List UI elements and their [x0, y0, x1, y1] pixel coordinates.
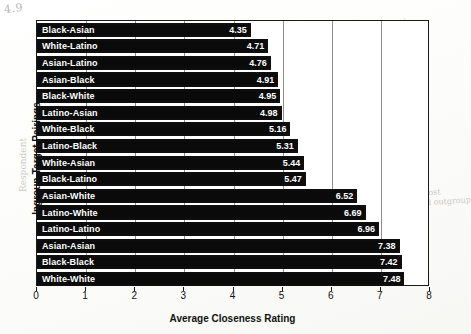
bar: Asian-Latino4.76 [37, 56, 271, 70]
bar-series: Black-Asian4.35White-Latino4.71Asian-Lat… [37, 21, 428, 285]
x-tick-label: 3 [181, 290, 187, 301]
bar-row: Asian-Asian7.38 [37, 239, 428, 253]
chart-plot-area: Black-Asian4.35White-Latino4.71Asian-Lat… [36, 20, 429, 286]
bar-category-label: Latino-Black [42, 141, 97, 151]
x-tick-label: 5 [279, 290, 285, 301]
bar-category-label: White-Black [42, 124, 95, 134]
x-tick-label: 4 [230, 290, 236, 301]
bar-row: Asian-Black4.91 [37, 72, 428, 86]
x-tick-label: 7 [377, 290, 383, 301]
bar-category-label: Black-Asian [42, 25, 95, 35]
bar-row: Latino-Asian4.98 [37, 106, 428, 120]
bar-value-label: 5.16 [269, 124, 287, 134]
bar-row: Black-Latino5.47 [37, 172, 428, 186]
bar: Asian-White6.52 [37, 189, 357, 203]
bar: Black-White4.95 [37, 89, 280, 103]
x-axis-title: Average Closeness Rating [36, 313, 429, 324]
bar-category-label: Asian-Asian [42, 241, 95, 251]
x-tick-label: 8 [426, 290, 432, 301]
x-tick-label: 6 [328, 290, 334, 301]
bar-value-label: 4.71 [247, 41, 265, 51]
bar: Asian-Asian7.38 [37, 239, 400, 253]
bar-value-label: 7.38 [378, 241, 396, 251]
bar-row: White-Asian5.44 [37, 156, 428, 170]
bar-category-label: Asian-Black [42, 75, 95, 85]
y-axis-title: Ingroup-Target Pairings [31, 59, 42, 259]
bar: Black-Latino5.47 [37, 172, 306, 186]
bar-value-label: 4.35 [229, 25, 247, 35]
bar-row: Black-Black7.42 [37, 255, 428, 269]
bar-value-label: 4.95 [259, 91, 277, 101]
bar-category-label: Latino-White [42, 208, 98, 218]
bar-row: White-White7.48 [37, 272, 428, 286]
bar: White-Black5.16 [37, 122, 290, 136]
bar-value-label: 6.69 [344, 208, 362, 218]
bar: Asian-Black4.91 [37, 72, 278, 86]
x-tick-label: 0 [33, 290, 39, 301]
bar: White-White7.48 [37, 272, 404, 286]
bar-value-label: 6.96 [357, 224, 375, 234]
bar: Latino-Asian4.98 [37, 106, 282, 120]
bar-row: Latino-Latino6.96 [37, 222, 428, 236]
bar-value-label: 4.76 [249, 58, 267, 68]
bar-row: Latino-White6.69 [37, 205, 428, 219]
bar-value-label: 6.52 [336, 191, 354, 201]
bar-row: Latino-Black5.31 [37, 139, 428, 153]
bar-category-label: Asian-Latino [42, 58, 98, 68]
bar-row: White-Latino4.71 [37, 39, 428, 53]
bar-category-label: Black-Black [42, 257, 94, 267]
bar-value-label: 7.48 [383, 274, 401, 284]
bar: White-Latino4.71 [37, 39, 268, 53]
bar-category-label: Black-Latino [42, 174, 97, 184]
x-tick-label: 2 [131, 290, 137, 301]
bar-value-label: 5.47 [284, 174, 302, 184]
bar-row: Black-White4.95 [37, 89, 428, 103]
bar-category-label: Black-White [42, 91, 95, 101]
bar-category-label: Latino-Asian [42, 108, 98, 118]
bar-row: Black-Asian4.35 [37, 23, 428, 37]
bar: Latino-Black5.31 [37, 139, 298, 153]
bar: White-Asian5.44 [37, 156, 304, 170]
bar-category-label: White-White [42, 274, 95, 284]
bar: Latino-White6.69 [37, 205, 366, 219]
x-tick-label: 1 [82, 290, 88, 301]
bar-value-label: 5.31 [276, 141, 294, 151]
bar-category-label: White-Latino [42, 41, 98, 51]
bar-category-label: White-Asian [42, 158, 95, 168]
bar-row: Asian-White6.52 [37, 189, 428, 203]
bar-value-label: 4.98 [260, 108, 278, 118]
x-axis-ticks: 012345678 [36, 287, 429, 301]
bar-category-label: Asian-White [42, 191, 95, 201]
bar: Black-Asian4.35 [37, 23, 251, 37]
bar: Black-Black7.42 [37, 255, 402, 269]
bar-value-label: 7.42 [380, 257, 398, 267]
bar-category-label: Latino-Latino [42, 224, 100, 234]
bar-value-label: 4.91 [257, 75, 275, 85]
bar-value-label: 5.44 [283, 158, 301, 168]
bar-row: White-Black5.16 [37, 122, 428, 136]
bar-row: Asian-Latino4.76 [37, 56, 428, 70]
bar: Latino-Latino6.96 [37, 222, 379, 236]
